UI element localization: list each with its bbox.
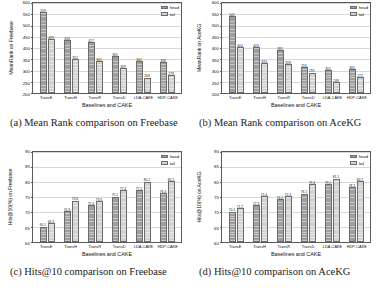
bar-value-label: 333 xyxy=(261,60,267,64)
bar-value-label: 77.2 xyxy=(136,187,142,191)
y-tick-d: 75 xyxy=(214,195,219,200)
bar-tail: 80.2 xyxy=(168,181,175,242)
y-axis-label-a-text: MeanRank on Freebase xyxy=(8,21,14,75)
bar-value-label: 341 xyxy=(96,58,102,62)
bar-wrap: 77.4 xyxy=(120,152,127,242)
legend-row-tail: tail xyxy=(161,161,179,166)
legend-row-head: head xyxy=(161,154,179,159)
legend-label-head: head xyxy=(170,5,179,10)
bar-group: 70.171.2 xyxy=(229,152,244,242)
bar-wrap: 80.2 xyxy=(357,152,364,242)
bar-group: 403333 xyxy=(253,3,268,93)
bar-value-label: 272 xyxy=(357,74,363,78)
y-tick-b: 500 xyxy=(212,23,219,28)
bar-wrap: 541 xyxy=(229,3,236,93)
bar-tail: 309 xyxy=(120,68,127,93)
y-tickmark-a xyxy=(31,93,33,94)
bar-tail: 80.2 xyxy=(357,181,364,242)
bar-group: 338278 xyxy=(160,3,175,93)
bar-tail: 73.8 xyxy=(72,201,79,242)
bar-value-label: 392 xyxy=(277,47,283,51)
bar-value-label: 72.3 xyxy=(253,202,259,206)
bar-value-label: 341 xyxy=(136,58,142,62)
bar-value-label: 338 xyxy=(160,59,166,63)
bar-wrap: 427 xyxy=(88,3,95,93)
y-axis-ticks-d: 60657075808590 xyxy=(205,151,220,243)
x-axis-label-b: Baselines and CAKE xyxy=(221,102,371,108)
legend-swatch-tail xyxy=(161,161,168,165)
bar-wrap: 338 xyxy=(160,3,167,93)
bar-group: 72.473.6 xyxy=(88,152,103,242)
bar-wrap: 278 xyxy=(168,3,175,93)
bar-tail: 73.6 xyxy=(96,201,103,242)
y-tick-c: 60 xyxy=(25,241,30,246)
bar-wrap: 76.4 xyxy=(160,152,167,242)
bar-wrap: 81.1 xyxy=(333,152,340,242)
bar-tail: 80.1 xyxy=(144,182,151,242)
bar-head: 392 xyxy=(277,50,284,93)
bar-tail: 278 xyxy=(168,75,175,93)
bar-value-label: 301 xyxy=(325,67,331,71)
caption-c-text: Hits@10 comparison on Freebase xyxy=(24,266,166,277)
legend-swatch-tail xyxy=(350,12,357,16)
bar-value-label: 248 xyxy=(333,79,339,83)
y-axis-ticks-a: 200250300350400450500550600 xyxy=(16,2,31,94)
bar-wrap: 65.1 xyxy=(40,152,47,242)
bar-wrap: 392 xyxy=(277,3,284,93)
bar-value-label: 66.3 xyxy=(48,220,54,224)
bar-head: 65.1 xyxy=(40,227,47,242)
bar-group: 341268 xyxy=(136,3,151,93)
bar-groups-c: 65.166.370.373.872.473.675.177.477.280.1… xyxy=(33,152,181,242)
bar-groups-d: 70.171.272.375.474.275.376.179.479.281.1… xyxy=(222,152,370,242)
bar-value-label: 73.6 xyxy=(96,198,102,202)
subfigure-c: Hits@10(%) on Freebase 60657075808590 65… xyxy=(0,149,189,298)
bar-wrap: 352 xyxy=(72,3,79,93)
y-tick-a: 300 xyxy=(23,69,30,74)
bar-value-label: 309 xyxy=(120,65,126,69)
bar-group: 75.177.4 xyxy=(112,152,127,242)
bar-tail: 352 xyxy=(72,59,79,93)
caption-a-label: (a) xyxy=(10,117,22,128)
caption-c: (c) Hits@10 comparison on Freebase xyxy=(4,263,185,278)
bar-tail: 77.4 xyxy=(120,190,127,242)
bar-tail: 75.3 xyxy=(285,196,292,242)
y-tick-b: 250 xyxy=(212,80,219,85)
bar-head: 301 xyxy=(325,70,332,93)
bar-wrap: 80.1 xyxy=(144,152,151,242)
bar-value-label: 268 xyxy=(144,74,150,78)
bar-tail: 81.1 xyxy=(333,179,340,242)
bar-value-label: 365 xyxy=(112,53,118,57)
bar-wrap: 78.3 xyxy=(349,152,356,242)
bar-value-label: 80.2 xyxy=(357,178,363,182)
bar-wrap: 341 xyxy=(96,3,103,93)
bar-wrap: 79.2 xyxy=(325,152,332,242)
legend-swatch-head xyxy=(161,6,168,10)
x-axis-label-c: Baselines and CAKE xyxy=(32,251,182,257)
bar-value-label: 278 xyxy=(168,72,174,76)
bar-head: 76.1 xyxy=(301,194,308,242)
bar-head: 72.3 xyxy=(253,205,260,242)
bar-group: 301248 xyxy=(325,3,340,93)
bar-wrap: 75.1 xyxy=(112,152,119,242)
legend-row-tail: tail xyxy=(350,12,368,17)
bar-group: 305272 xyxy=(349,3,364,93)
bar-group: 559439 xyxy=(40,3,55,93)
caption-d: (d) Hits@10 comparison on AceKG xyxy=(193,263,374,278)
bar-head: 338 xyxy=(160,62,167,93)
bar-wrap: 248 xyxy=(333,3,340,93)
bar-wrap: 75.4 xyxy=(261,152,268,242)
bar-group: 541404 xyxy=(229,3,244,93)
bar-wrap: 79.4 xyxy=(309,152,316,242)
figure-grid: MeanRank on Freebase 2002503003504004505… xyxy=(0,0,378,298)
bar-head: 305 xyxy=(349,69,356,93)
plot-area-d: 70.171.272.375.474.275.376.179.479.281.1… xyxy=(221,151,371,243)
bar-value-label: 80.1 xyxy=(144,178,150,182)
y-tick-a: 450 xyxy=(23,34,30,39)
y-tick-c: 80 xyxy=(25,179,30,184)
bar-group: 72.375.4 xyxy=(253,152,268,242)
legend-row-tail: tail xyxy=(350,161,368,166)
bar-head: 403 xyxy=(253,47,260,93)
bar-head: 316 xyxy=(301,67,308,93)
y-tick-d: 60 xyxy=(214,241,219,246)
bar-tail: 71.2 xyxy=(237,208,244,242)
